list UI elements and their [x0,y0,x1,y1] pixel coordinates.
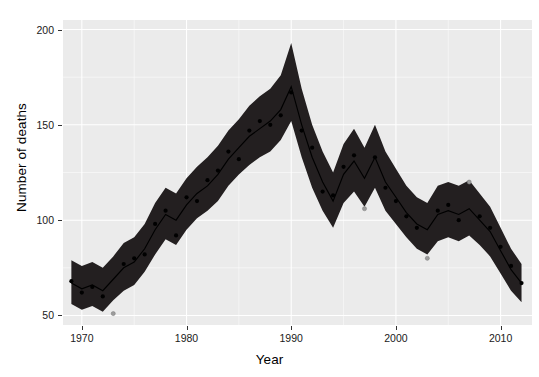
data-point [143,252,147,256]
data-point [488,226,492,230]
data-point [268,123,272,127]
x-tick-mark [396,326,397,330]
data-point [498,245,502,249]
y-tick-mark [58,125,62,126]
data-point [519,281,523,285]
data-point [341,165,345,169]
confidence-band [71,43,521,312]
y-tick-label: 150 [14,119,54,131]
data-point [279,113,283,117]
plot-panel [63,20,532,325]
data-point [373,155,377,159]
data-point [90,285,94,289]
x-axis-title: Year [0,352,539,367]
data-point [184,195,188,199]
data-point [457,218,461,222]
data-point [300,128,304,132]
data-point [310,146,314,150]
data-point [509,264,513,268]
data-point [163,209,167,213]
x-tick-mark [501,326,502,330]
x-tick-mark [187,326,188,330]
data-point [101,294,105,298]
data-point [111,311,115,315]
x-tick-label: 2000 [371,332,421,344]
y-tick-mark [58,30,62,31]
data-point [216,168,220,172]
data-point [132,256,136,260]
data-point [383,186,387,190]
data-point [331,193,335,197]
x-tick-mark [291,326,292,330]
x-tick-label: 1990 [266,332,316,344]
y-tick-mark [58,315,62,316]
y-tick-mark [58,220,62,221]
y-tick-label: 50 [14,309,54,321]
chart-figure: Number of deaths Year 501001502001970198… [0,0,539,377]
x-tick-label: 1970 [57,332,107,344]
data-point [174,233,178,237]
data-point [237,157,241,161]
data-point [352,153,356,157]
data-point [205,178,209,182]
data-point [404,214,408,218]
y-tick-label: 200 [14,24,54,36]
data-point [415,226,419,230]
data-point [258,119,262,123]
data-point [478,214,482,218]
data-point [394,199,398,203]
data-point [80,290,84,294]
x-tick-label: 2010 [476,332,526,344]
data-point [69,279,73,283]
data-point [467,180,471,184]
y-axis-title: Number of deaths [14,93,29,223]
data-point [122,262,126,266]
data-point [425,256,429,260]
data-point [226,149,230,153]
x-tick-mark [82,326,83,330]
plot-canvas [63,20,532,325]
data-point [195,199,199,203]
data-point [436,209,440,213]
data-point [247,128,251,132]
data-point [153,222,157,226]
x-tick-label: 1980 [162,332,212,344]
y-tick-label: 100 [14,214,54,226]
data-point [362,207,366,211]
data-point [289,90,293,94]
data-point [321,189,325,193]
data-point [446,203,450,207]
